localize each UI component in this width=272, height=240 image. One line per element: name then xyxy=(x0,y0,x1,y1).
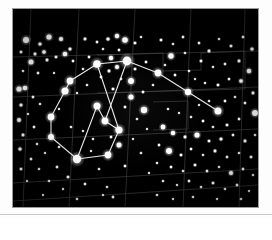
field-star-133 xyxy=(155,161,159,165)
star-core xyxy=(112,88,115,91)
star-core xyxy=(73,155,81,163)
star-core xyxy=(110,136,112,138)
star-core xyxy=(39,103,41,105)
star-core xyxy=(194,164,197,167)
field-star-77 xyxy=(159,38,164,43)
field-star-80 xyxy=(166,51,176,61)
star-core xyxy=(136,118,138,120)
field-star-118 xyxy=(192,130,202,140)
field-star-119 xyxy=(207,139,212,144)
field-star-37 xyxy=(105,185,109,189)
star-core xyxy=(86,84,88,86)
field-star-2 xyxy=(44,32,54,42)
star-core xyxy=(166,148,172,154)
star-core xyxy=(23,37,29,43)
field-star-101 xyxy=(250,90,255,95)
star-core xyxy=(42,194,44,196)
field-star-127 xyxy=(189,147,194,152)
star-core xyxy=(53,72,55,74)
star-core xyxy=(180,154,183,157)
field-star-59 xyxy=(111,87,116,92)
star-core xyxy=(34,53,37,56)
field-star-120 xyxy=(218,136,224,142)
field-star-24 xyxy=(20,132,25,137)
field-star-123 xyxy=(253,133,257,137)
field-star-23 xyxy=(32,125,37,130)
field-star-90 xyxy=(211,65,215,69)
star-core xyxy=(174,74,176,76)
field-star-33 xyxy=(47,179,51,183)
star-core xyxy=(70,126,72,128)
star-core xyxy=(234,96,236,98)
star-core xyxy=(216,198,218,200)
field-star-26 xyxy=(17,146,23,152)
field-star-66 xyxy=(135,117,139,121)
star-core xyxy=(167,108,169,110)
star-core xyxy=(109,56,113,60)
field-star-83 xyxy=(206,48,211,53)
field-star-64 xyxy=(151,83,155,87)
field-star-93 xyxy=(173,73,178,78)
field-star-36 xyxy=(83,182,88,187)
field-star-13 xyxy=(21,69,25,73)
star-core xyxy=(204,82,206,84)
star-core xyxy=(112,196,114,198)
field-star-109 xyxy=(225,123,230,128)
field-star-153 xyxy=(215,197,219,201)
field-star-84 xyxy=(217,37,221,41)
field-star-63 xyxy=(141,90,146,95)
star-core xyxy=(120,78,122,80)
star-core xyxy=(220,138,223,141)
star-core xyxy=(160,39,163,42)
star-core xyxy=(59,37,63,41)
field-star-149 xyxy=(247,189,251,193)
star-core xyxy=(56,166,58,168)
field-star-34 xyxy=(66,175,71,180)
star-core xyxy=(27,113,29,115)
star-core xyxy=(38,42,41,45)
field-star-61 xyxy=(75,91,79,95)
field-star-27 xyxy=(29,157,34,162)
star-core xyxy=(82,68,84,70)
star-bellatrix xyxy=(90,57,104,71)
star-core xyxy=(48,180,50,182)
star-rigel xyxy=(69,151,85,167)
star-core xyxy=(244,102,246,104)
star-core xyxy=(134,42,137,45)
star-core xyxy=(200,186,202,188)
field-star-154 xyxy=(239,197,243,201)
field-star-0 xyxy=(20,34,31,45)
field-star-38 xyxy=(41,193,45,197)
star-core xyxy=(238,152,240,154)
star-core xyxy=(224,188,226,190)
star-core xyxy=(102,48,104,50)
field-star-151 xyxy=(171,197,175,201)
field-star-112 xyxy=(189,115,193,119)
field-star-115 xyxy=(158,122,167,131)
star-core xyxy=(230,45,233,48)
field-star-12 xyxy=(19,50,24,55)
star-core xyxy=(55,56,58,59)
star-core xyxy=(122,37,128,43)
star-core xyxy=(145,61,147,63)
star-core xyxy=(190,116,192,118)
star-core xyxy=(88,56,90,58)
star-core xyxy=(252,174,254,176)
field-star-155 xyxy=(147,171,151,175)
field-star-152 xyxy=(191,195,195,199)
star-core xyxy=(194,78,196,80)
star-core xyxy=(218,38,220,40)
star-core xyxy=(100,76,102,78)
star-core xyxy=(254,134,256,136)
field-star-57 xyxy=(99,75,104,80)
star-core xyxy=(202,120,204,122)
star-core xyxy=(152,84,154,86)
star-pi5-ori xyxy=(45,111,58,124)
star-pi4-ori xyxy=(58,84,72,98)
star-core xyxy=(102,118,109,125)
star-core xyxy=(206,170,208,172)
star-core xyxy=(84,38,87,41)
field-star-20 xyxy=(38,102,42,106)
star-core xyxy=(115,126,122,133)
star-core xyxy=(58,108,60,110)
